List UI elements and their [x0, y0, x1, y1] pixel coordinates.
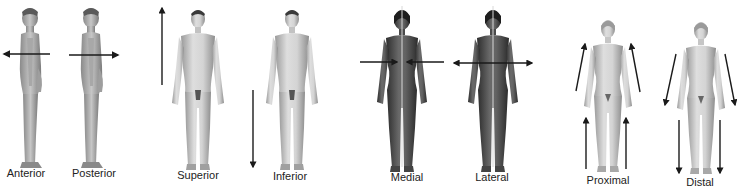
- panel-medial: [360, 6, 444, 172]
- label-inferior: Inferior: [273, 170, 307, 182]
- label-lateral: Lateral: [475, 171, 509, 183]
- panel-inferior: [253, 10, 318, 170]
- label-distal: Distal: [686, 176, 714, 188]
- panel-superior: [162, 8, 224, 170]
- front-view-male-figure: [172, 10, 224, 170]
- panel-anterior: [4, 8, 50, 168]
- arrow-down-right-arm-icon: [725, 54, 735, 105]
- panel-distal: [665, 22, 735, 174]
- panel-posterior: [69, 8, 118, 168]
- front-view-male-figure: [266, 10, 318, 170]
- label-posterior: Posterior: [72, 167, 116, 179]
- panel-proximal: [576, 20, 640, 172]
- anatomical-directional-terms-diagram: Anterior Posterior Superior Inferior Med…: [0, 0, 738, 195]
- front-view-female-figure: [677, 22, 725, 174]
- label-medial: Medial: [391, 171, 423, 183]
- arrow-up-right-arm-icon: [631, 44, 640, 92]
- arrow-down-left-arm-icon: [665, 54, 676, 105]
- side-view-male-figure: [20, 8, 42, 168]
- side-view-male-figure: [81, 8, 103, 168]
- panel-lateral: [454, 6, 532, 172]
- label-anterior: Anterior: [7, 167, 46, 179]
- front-view-female-figure: [584, 20, 632, 172]
- label-superior: Superior: [177, 169, 219, 181]
- label-proximal: Proximal: [587, 174, 630, 186]
- arrow-up-left-arm-icon: [576, 44, 585, 91]
